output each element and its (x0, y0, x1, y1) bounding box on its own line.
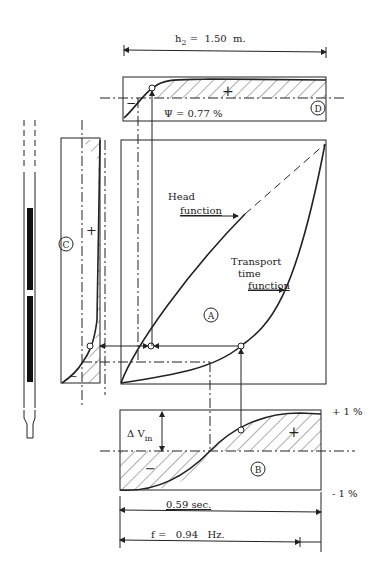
head-function-label-2: function (180, 205, 222, 216)
psi-label: Ψ = 0.77 % (164, 108, 222, 119)
panel-c-id: C (63, 240, 70, 250)
h2-dimension (124, 45, 326, 58)
panel-c (61, 120, 100, 405)
pipe-drawing (24, 120, 35, 438)
panel-c-minus: − (69, 371, 77, 382)
panel-b-plus: + (288, 424, 300, 440)
panel-c-plus: + (86, 223, 97, 238)
hydraulic-diagram: h2 = 1.50 m. Ψ = 0.77 % + − D C + − Head… (0, 0, 378, 580)
period-label: 0.59 sec. (166, 499, 211, 510)
panel-b-minus: − (145, 461, 156, 476)
frequency-label: f = 0.94 Hz. (151, 529, 225, 540)
panel-d-id: D (314, 104, 321, 114)
head-function-label-1: Head (168, 191, 196, 202)
panel-b (100, 410, 355, 490)
panel-b-id: B (255, 465, 262, 475)
projection-lines (82, 91, 241, 451)
panel-a-id: A (207, 311, 215, 321)
delta-v-label: Δ Vin (127, 428, 152, 443)
transport-label-2: time (238, 268, 261, 279)
panel-d-minus: − (126, 96, 136, 110)
lower-limit-label: - 1 % (332, 488, 358, 499)
h2-label: h2 = 1.50 m. (175, 33, 246, 47)
panel-d-plus: + (222, 83, 234, 99)
bottom-dimensions (120, 492, 321, 552)
transport-label-1: Transport (231, 256, 281, 267)
transport-label-3: function (248, 280, 290, 291)
upper-limit-label: + 1 % (332, 406, 363, 417)
